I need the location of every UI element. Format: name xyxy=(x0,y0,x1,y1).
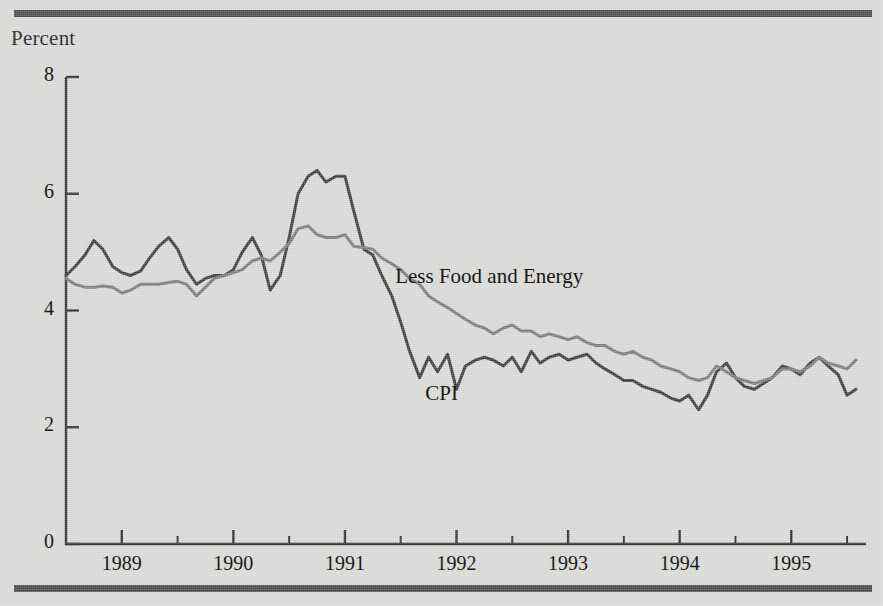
y-tick-label: 6 xyxy=(20,180,54,203)
axis-spine xyxy=(66,77,866,544)
series-annotation-cpi: CPI xyxy=(425,381,458,406)
x-tick-label: 1990 xyxy=(193,552,273,575)
x-tick-label: 1995 xyxy=(751,552,831,575)
y-tick-label: 0 xyxy=(20,530,54,553)
x-tick-label: 1993 xyxy=(528,552,608,575)
y-tick-label: 8 xyxy=(20,63,54,86)
chart-plot-area xyxy=(0,0,883,606)
series-line-less-food-and-energy xyxy=(66,226,856,384)
figure-container: Percent 02468198919901991199219931994199… xyxy=(0,0,883,606)
y-tick-label: 2 xyxy=(20,413,54,436)
chart-svg xyxy=(0,0,883,606)
x-tick-label: 1994 xyxy=(640,552,720,575)
x-tick-label: 1991 xyxy=(305,552,385,575)
x-tick-label: 1989 xyxy=(82,552,162,575)
y-tick-label: 4 xyxy=(20,297,54,320)
x-tick-label: 1992 xyxy=(417,552,497,575)
series-line-cpi xyxy=(66,170,856,409)
series-annotation-less-food-and-energy: Less Food and Energy xyxy=(395,264,583,289)
